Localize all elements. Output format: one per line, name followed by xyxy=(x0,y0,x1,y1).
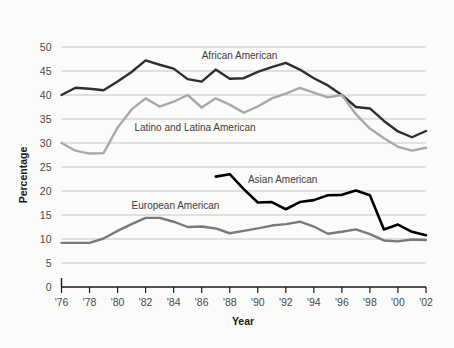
y-axis-tick-labels: 05101520253035404550 xyxy=(40,41,52,293)
y-axis-tick-label: 45 xyxy=(40,65,52,77)
y-axis-tick-label: 40 xyxy=(40,89,52,101)
x-axis-tick-label: '86 xyxy=(195,296,209,308)
data-series xyxy=(62,60,427,242)
series-label-european-american: European American xyxy=(132,200,220,211)
y-axis-tick-label: 5 xyxy=(46,257,52,269)
series-line-latino-and-latina-american xyxy=(62,88,427,154)
series-labels: African AmericanLatino and Latina Americ… xyxy=(132,50,318,211)
x-axis-tick-label: '80 xyxy=(111,296,125,308)
x-axis-title: Year xyxy=(232,315,254,327)
y-axis-tick-label: 35 xyxy=(40,113,52,125)
x-axis-tick-label: '94 xyxy=(307,296,321,308)
y-axis-title: Percentage xyxy=(17,147,29,204)
y-axis-tick-label: 15 xyxy=(40,209,52,221)
line-chart: 05101520253035404550 '76'78'80'82'84'86'… xyxy=(0,0,454,348)
y-axis-tick-label: 0 xyxy=(46,281,52,293)
x-axis-tick-label: '92 xyxy=(279,296,293,308)
y-axis-tick-label: 30 xyxy=(40,137,52,149)
series-label-asian-american: Asian American xyxy=(248,174,317,185)
x-axis-tick-label: '98 xyxy=(363,296,377,308)
x-axis-tick-label: '90 xyxy=(251,296,265,308)
chart-canvas: 05101520253035404550 '76'78'80'82'84'86'… xyxy=(0,0,454,348)
x-axis-tick-label: '02 xyxy=(419,296,433,308)
y-axis-tick-label: 25 xyxy=(40,161,52,173)
x-axis-tick-label: '96 xyxy=(335,296,349,308)
x-axis-tick-label: '84 xyxy=(167,296,181,308)
y-axis-tick-label: 50 xyxy=(40,41,52,53)
y-axis-tick-label: 20 xyxy=(40,185,52,197)
x-axis-tick-label: '76 xyxy=(55,296,69,308)
axes xyxy=(62,278,427,293)
x-axis-tick-label: '00 xyxy=(391,296,405,308)
x-axis-tick-label: '82 xyxy=(139,296,153,308)
series-label-latino-and-latina-american: Latino and Latina American xyxy=(134,122,255,133)
x-axis-tick-label: '78 xyxy=(83,296,97,308)
series-label-african-american: African American xyxy=(202,50,278,61)
x-axis-tick-label: '88 xyxy=(223,296,237,308)
x-axis-tick-labels: '76'78'80'82'84'86'88'90'92'94'96'98'00'… xyxy=(55,296,433,308)
y-axis-tick-label: 10 xyxy=(40,233,52,245)
